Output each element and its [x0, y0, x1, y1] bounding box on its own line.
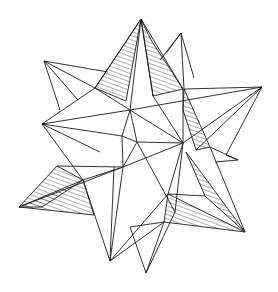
edges — [19, 19, 262, 273]
top-left-shaded-face — [95, 19, 141, 101]
stellated-polyhedron-drawing — [0, 0, 278, 292]
polyhedron-svg — [0, 0, 278, 292]
